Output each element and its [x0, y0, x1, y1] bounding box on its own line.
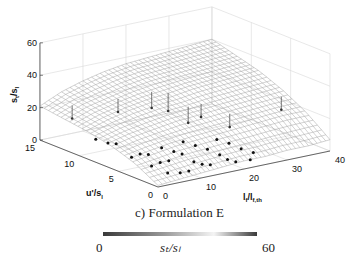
data-point	[160, 146, 163, 149]
surface-mesh-line	[44, 103, 162, 184]
surface-mesh-line	[135, 61, 253, 159]
data-point	[167, 159, 170, 162]
data-point	[187, 169, 190, 172]
data-point	[226, 158, 229, 161]
data-point	[181, 152, 184, 155]
z-tick-label: 40	[27, 70, 37, 80]
x-axis-label: lf/lf,th	[243, 192, 262, 203]
stem-point	[228, 126, 231, 129]
data-point	[179, 171, 182, 174]
data-point	[147, 153, 150, 156]
data-point	[139, 152, 142, 155]
grid-line	[212, 39, 330, 86]
y-tick-label: 0	[148, 190, 153, 200]
surface-mesh-line	[40, 106, 158, 185]
stem-point	[117, 111, 120, 114]
data-point	[159, 161, 162, 164]
data-point	[172, 150, 175, 153]
data-point	[215, 138, 218, 141]
data-point	[150, 164, 153, 167]
y-axis-line	[40, 140, 158, 187]
y-tick-label: 15	[25, 143, 35, 153]
colorbar-max-label: 60	[262, 240, 275, 256]
data-point	[206, 148, 209, 151]
data-point	[218, 153, 221, 156]
x-tick-label: 0	[163, 191, 168, 201]
surface-plot-3d: 0204060051015010203040 st/sl u'/sl lf/lf…	[0, 0, 359, 215]
data-point	[240, 147, 243, 150]
data-point	[201, 163, 204, 166]
stem-point	[187, 122, 190, 125]
z-tick-label: 20	[27, 103, 37, 113]
data-point	[115, 142, 118, 145]
stem-point	[71, 117, 74, 120]
stem-point	[150, 107, 153, 110]
y-tick-label: 5	[109, 174, 114, 184]
colorbar	[103, 232, 257, 236]
data-point	[194, 144, 197, 147]
data-point	[192, 160, 195, 163]
z-tick-label: 60	[27, 38, 37, 48]
y-axis-label: u'/sl	[86, 188, 103, 200]
z-axis-label: st/sl	[9, 86, 20, 103]
y-tick-label: 10	[64, 159, 74, 169]
surface-mesh-line	[53, 48, 225, 113]
surface-mesh-line	[107, 87, 279, 143]
fitted-surface-mesh	[40, 39, 330, 185]
colorbar-title: sₜ/sₗ	[160, 240, 180, 256]
x-tick-label: 20	[249, 173, 259, 183]
data-point	[182, 140, 185, 143]
x-axis-line	[158, 151, 330, 187]
surface-mesh-line	[126, 64, 244, 161]
surface-mesh-line	[95, 77, 267, 136]
stem-point	[200, 116, 203, 119]
x-tick-label: 40	[335, 155, 345, 165]
data-point	[106, 142, 109, 145]
data-point	[249, 158, 252, 161]
colorbar-min-label: 0	[96, 240, 103, 256]
stem-point	[280, 108, 283, 111]
surface-mesh-line	[66, 90, 184, 178]
figure-caption: c) Formulation E	[0, 205, 359, 221]
grid-line	[212, 7, 330, 54]
data-point	[234, 160, 237, 163]
stem-point	[167, 110, 170, 113]
data-point	[209, 163, 212, 166]
data-point	[252, 151, 255, 154]
x-tick-label: 30	[292, 164, 302, 174]
x-tick-label: 10	[206, 182, 216, 192]
surface-mesh-line	[65, 56, 237, 119]
data-point	[130, 156, 133, 159]
data-point	[94, 138, 97, 141]
data-point	[166, 171, 169, 174]
data-point	[227, 142, 230, 145]
